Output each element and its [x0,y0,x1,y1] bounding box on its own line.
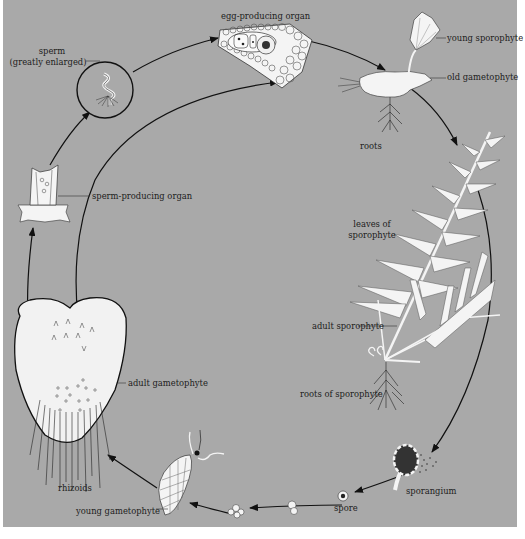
label-roots-of-sporophyte: roots of sporophyte [300,389,383,399]
young-gametophyte-illustration [159,430,224,515]
label-young-sporophyte: young sporophyte [446,33,523,43]
label-sperm-sub: (greatly enlarged) [10,57,87,67]
arrow-young-to-adult-gametophyte [108,455,157,488]
label-sperm: sperm [39,46,66,56]
sporangium-illustration [394,445,437,490]
young-sporophyte-illustration [338,12,446,132]
arrow-young-to-adult-sporophyte [410,88,457,145]
label-leaves-of: leaves of [353,219,391,229]
label-rhizoids: rhizoids [58,483,92,493]
fern-life-cycle-diagram: sperm (greatly enlarged) egg-producing o… [0,0,525,539]
label-old-gametophyte: old gametophyte [447,72,518,82]
arrow-sperm-to-egg-organ [133,38,218,72]
dividing-spores-illustration [228,501,298,518]
label-sporangium: sporangium [406,486,457,496]
adult-sporophyte-illustration [350,132,505,410]
adult-gametophyte-illustration [15,298,127,492]
label-adult-sporophyte: adult sporophyte [312,321,384,331]
label-adult-gametophyte: adult gametophyte [128,378,208,388]
spore-illustration [338,491,348,501]
arrow-sperm-organ-to-sperm [50,112,90,165]
label-sperm-producing-organ: sperm-producing organ [92,191,193,201]
arrow-dividing-to-young-gametophyte [190,503,232,514]
sperm-illustration [77,61,133,118]
label-roots: roots [360,141,382,151]
arrow-egg-organ-to-young-sporophyte [305,40,385,70]
label-egg-producing-organ: egg-producing organ [221,11,311,21]
label-young-gametophyte: young gametophyte [75,506,160,516]
sperm-producing-organ-illustration [18,165,90,222]
label-spore: spore [334,503,358,513]
label-sporophyte: sporophyte [348,230,396,240]
egg-producing-organ-illustration [218,24,312,89]
